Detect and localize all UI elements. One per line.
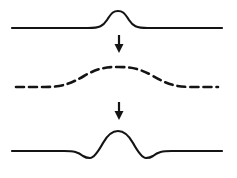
- figure-container: [0, 0, 237, 178]
- signal-sharpening-diagram: [0, 0, 237, 178]
